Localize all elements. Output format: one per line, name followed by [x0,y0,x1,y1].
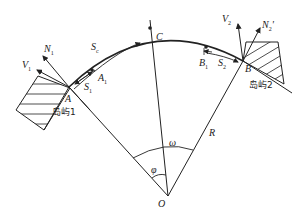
diagram-graphics [0,0,301,216]
radius-OB [168,61,243,196]
point-A1 [90,68,94,72]
vector-V2 [238,24,243,61]
label-N2p: N2' [262,20,274,32]
vector-V1 [37,70,69,87]
diagram-canvas: N1 V1 Sc A1 S1 A 岛屿1 C B1 S2 B V2 N2' 岛屿… [0,0,301,216]
point-C [148,26,152,30]
label-V2: V2 [222,14,231,26]
label-phi: φ [151,165,157,175]
label-S1: S1 [84,82,92,94]
label-island-1: 岛屿1 [52,108,76,117]
label-C: C [156,32,163,42]
label-B: B [245,64,251,74]
label-S2: S2 [218,58,226,70]
label-A1: A1 [98,73,107,85]
point-B1 [204,45,208,49]
label-A: A [65,94,71,104]
label-island-2: 岛屿2 [249,81,273,90]
label-N1: N1 [44,44,54,56]
label-R: R [209,128,215,138]
label-O: O [158,199,165,209]
label-Sc: Sc [91,42,99,54]
island-1-shape [0,76,90,130]
label-omega: ω [169,138,176,148]
label-B1: B1 [199,58,208,70]
label-V1: V1 [22,60,31,72]
